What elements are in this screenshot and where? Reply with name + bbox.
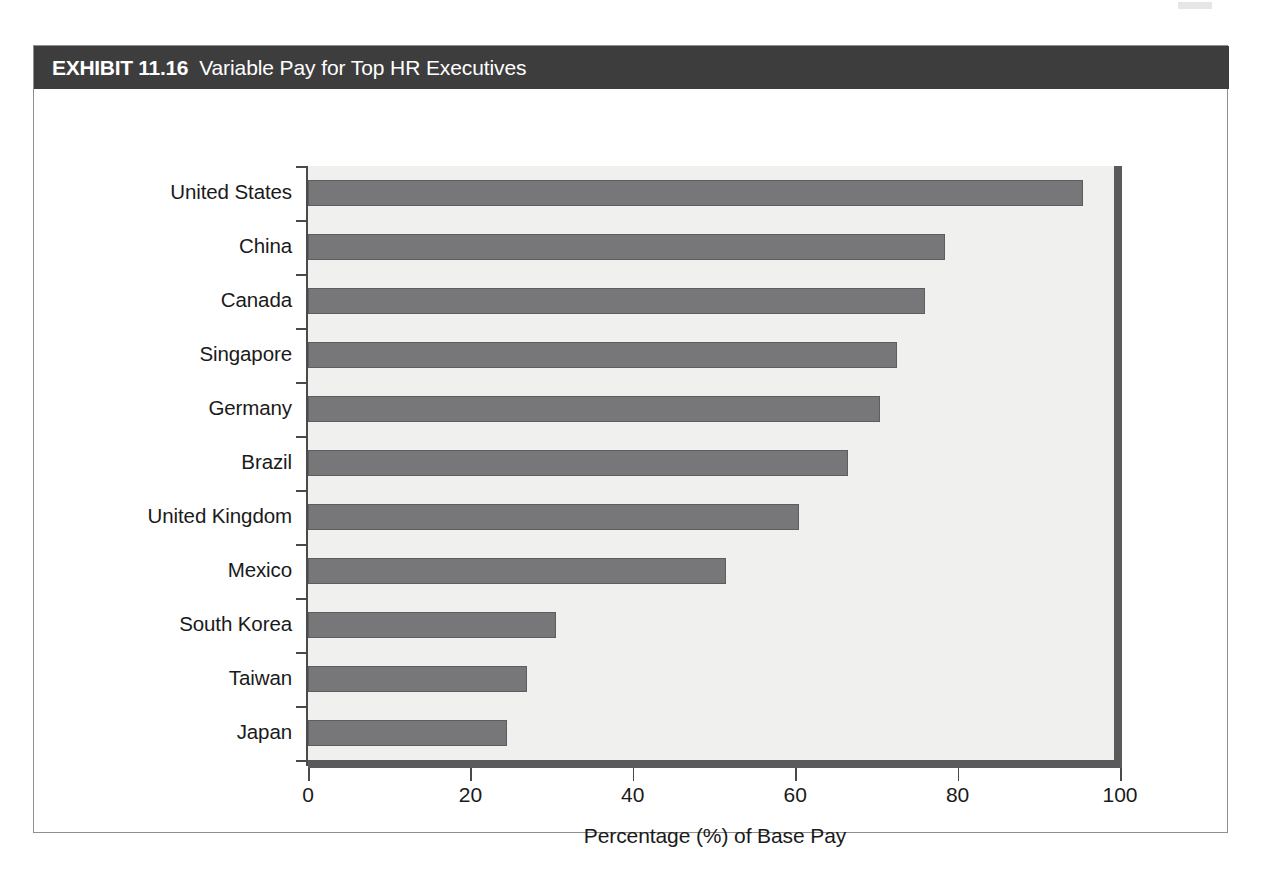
bar — [308, 558, 726, 584]
x-tick-label: 0 — [302, 783, 314, 807]
bar — [308, 720, 507, 746]
y-tick-mark — [296, 652, 308, 654]
y-tick-mark — [296, 436, 308, 438]
x-tick-label: 80 — [946, 783, 969, 807]
y-tick-mark — [296, 598, 308, 600]
exhibit-number: EXHIBIT 11.16 — [52, 56, 188, 80]
y-tick-mark — [296, 274, 308, 276]
bar — [308, 450, 848, 476]
exhibit-frame: EXHIBIT 11.16 Variable Pay for Top HR Ex… — [33, 45, 1228, 833]
bar — [308, 180, 1083, 206]
bars-layer — [308, 166, 1120, 760]
y-tick-mark — [296, 220, 308, 222]
y-tick-mark — [296, 544, 308, 546]
x-tick-mark — [308, 768, 310, 781]
category-labels: United StatesChinaCanadaSingaporeGermany… — [34, 166, 292, 760]
plot-shadow-bottom — [308, 760, 1122, 768]
category-label: Germany — [32, 396, 292, 420]
chart-region: United StatesChinaCanadaSingaporeGermany… — [34, 89, 1229, 832]
y-tick-mark — [296, 166, 308, 168]
y-tick-mark — [296, 760, 308, 762]
category-label: Canada — [32, 288, 292, 312]
x-axis-title: Percentage (%) of Base Pay — [308, 824, 1122, 848]
x-tick-mark — [795, 768, 797, 781]
x-tick-label: 60 — [784, 783, 807, 807]
bar — [308, 666, 527, 692]
x-tick-mark — [958, 768, 960, 781]
bar — [308, 234, 945, 260]
x-tick-mark — [470, 768, 472, 781]
category-label: Brazil — [32, 450, 292, 474]
y-tick-mark — [296, 382, 308, 384]
scan-artifact — [1178, 2, 1212, 9]
bar — [308, 504, 799, 530]
x-tick-label: 100 — [1102, 783, 1137, 807]
y-tick-mark — [296, 490, 308, 492]
bar — [308, 396, 880, 422]
exhibit-title-banner: EXHIBIT 11.16 Variable Pay for Top HR Ex… — [34, 46, 1229, 89]
bar — [308, 342, 897, 368]
y-tick-mark — [296, 328, 308, 330]
category-label: South Korea — [32, 612, 292, 636]
x-tick-label: 20 — [459, 783, 482, 807]
category-label: Taiwan — [32, 666, 292, 690]
category-label: United States — [32, 180, 292, 204]
x-tick-label: 40 — [621, 783, 644, 807]
x-tick-mark — [1120, 768, 1122, 781]
category-label: Japan — [32, 720, 292, 744]
bar — [308, 288, 925, 314]
y-tick-mark — [296, 706, 308, 708]
category-label: Singapore — [32, 342, 292, 366]
category-label: United Kingdom — [32, 504, 292, 528]
category-label: China — [32, 234, 292, 258]
bar — [308, 612, 556, 638]
category-label: Mexico — [32, 558, 292, 582]
exhibit-caption: Variable Pay for Top HR Executives — [199, 56, 526, 80]
x-tick-mark — [633, 768, 635, 781]
